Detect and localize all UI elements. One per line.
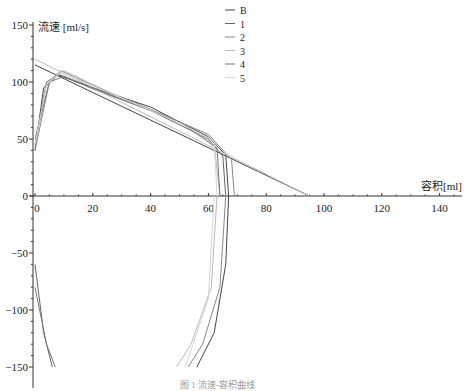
legend-item-5: 5 [240, 73, 245, 84]
legend-item-B: B [240, 5, 247, 16]
y-ticks: 150100500−50−100−150 [5, 19, 33, 373]
svg-text:−100: −100 [5, 304, 28, 316]
svg-text:80: 80 [261, 202, 273, 214]
legend-item-1: 1 [240, 19, 245, 30]
legend-item-3: 3 [240, 46, 245, 57]
series-2-expiratory [35, 71, 234, 196]
svg-text:150: 150 [12, 19, 29, 31]
series-3-inspiratory [177, 196, 217, 367]
series-4-inspiratory [35, 287, 55, 367]
series-3-reference [35, 59, 310, 196]
legend-item-2: 2 [240, 32, 245, 43]
svg-text:100: 100 [12, 76, 29, 88]
svg-text:−50: −50 [11, 247, 29, 259]
legend: B12345 [225, 5, 247, 84]
x-axis-label: 容积[ml] [421, 179, 462, 192]
svg-text:0: 0 [34, 202, 40, 214]
svg-text:60: 60 [203, 202, 215, 214]
svg-text:0: 0 [23, 190, 29, 202]
series-5-expiratory [35, 73, 217, 196]
svg-text:100: 100 [316, 202, 333, 214]
svg-text:120: 120 [374, 202, 391, 214]
legend-item-4: 4 [240, 59, 245, 70]
series-3-expiratory [35, 71, 220, 196]
svg-text:50: 50 [17, 133, 29, 145]
svg-text:20: 20 [87, 202, 99, 214]
svg-text:140: 140 [431, 202, 448, 214]
series-1-expiratory [35, 74, 226, 196]
series-4-expiratory [35, 76, 220, 196]
series-B-reference [35, 65, 310, 196]
y-axis-label: 流速 [ml/s] [38, 20, 89, 33]
figure-caption: 图 1 流速-容积曲线 [180, 378, 255, 391]
svg-text:40: 40 [145, 202, 157, 214]
svg-text:−150: −150 [5, 361, 28, 373]
